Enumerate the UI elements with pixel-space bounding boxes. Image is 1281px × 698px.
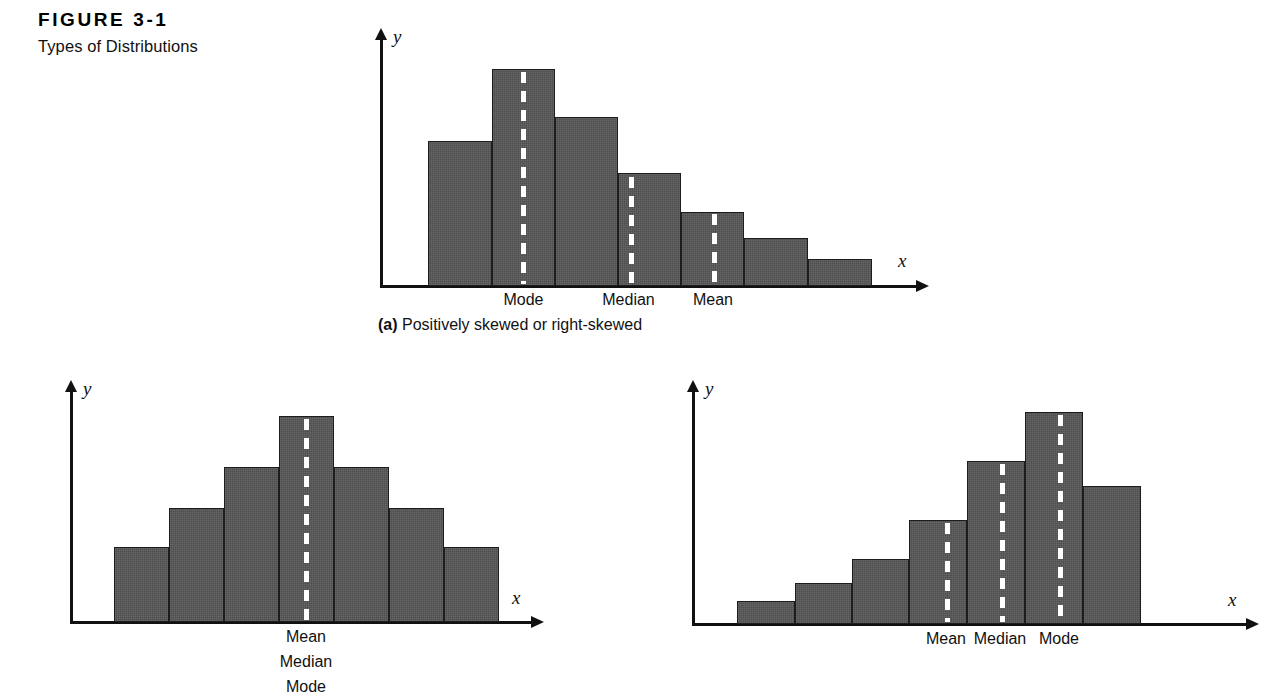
y-axis-arrow-c xyxy=(687,380,699,392)
bar-c-7 xyxy=(1083,486,1141,624)
median-marker-c xyxy=(1000,464,1005,622)
bar-c-1 xyxy=(737,601,795,624)
stat-label-c-mode: Mode xyxy=(1018,630,1100,648)
y-axis-line-c xyxy=(692,392,695,624)
mean-marker-c xyxy=(945,523,950,622)
bar-c-6 xyxy=(1025,412,1083,624)
x-axis-arrow-c xyxy=(1246,618,1259,630)
bar-c-4 xyxy=(909,520,967,624)
chart-panel-c: y x Mean Median Mode xyxy=(0,0,1281,698)
bar-c-3 xyxy=(852,559,909,624)
x-axis-label-c: x xyxy=(1228,589,1236,611)
bar-c-5 xyxy=(967,461,1025,624)
y-axis-label-c: y xyxy=(705,378,713,400)
mode-marker-c xyxy=(1058,415,1063,622)
bar-c-2 xyxy=(795,583,852,624)
